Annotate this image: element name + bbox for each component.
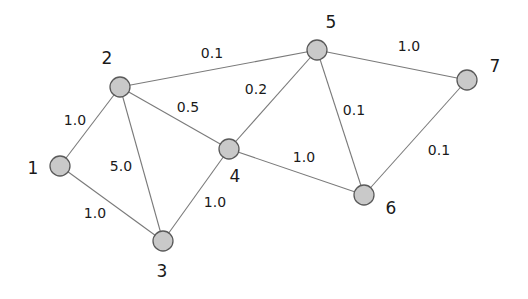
- node-6: [354, 185, 374, 205]
- node-3: [153, 231, 173, 251]
- node-4: [219, 139, 239, 159]
- edge-weight-label: 0.1: [343, 103, 365, 117]
- node-label: 1: [28, 160, 39, 177]
- node-label: 5: [326, 14, 337, 31]
- edge-weight-label: 0.1: [201, 46, 223, 60]
- nodes-layer: [50, 40, 477, 251]
- edge-weight-label: 0.1: [428, 143, 450, 157]
- edge-weight-label: 5.0: [110, 159, 132, 173]
- node-label: 2: [102, 50, 113, 67]
- node-label: 3: [157, 263, 168, 280]
- edge-4-5: [229, 50, 317, 149]
- node-label: 4: [230, 168, 241, 185]
- edge-weight-label: 0.5: [177, 100, 199, 114]
- node-5: [307, 40, 327, 60]
- edge-weight-label: 0.2: [245, 82, 267, 96]
- edge-weight-label: 1.0: [398, 39, 420, 53]
- node-1: [50, 156, 70, 176]
- node-2: [110, 77, 130, 97]
- node-7: [457, 70, 477, 90]
- edge-weight-label: 1.0: [204, 195, 226, 209]
- edge-weight-label: 1.0: [84, 206, 106, 220]
- graph-diagram: 1.01.05.00.50.11.00.21.00.11.00.11234567: [0, 0, 528, 299]
- node-label: 6: [386, 200, 397, 217]
- edge-weight-label: 1.0: [293, 150, 315, 164]
- edge-5-7: [317, 50, 467, 80]
- edge-5-6: [317, 50, 364, 195]
- edge-2-4: [120, 87, 229, 149]
- node-label: 7: [490, 58, 501, 75]
- edge-6-7: [364, 80, 467, 195]
- edge-weight-label: 1.0: [64, 113, 86, 127]
- edge-1-3: [60, 166, 163, 241]
